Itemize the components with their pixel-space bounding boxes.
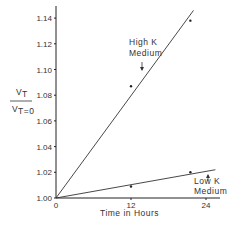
x-tick-label: 24 [202, 201, 211, 210]
series-line [56, 10, 194, 198]
y-tick-label: 1.04 [36, 143, 52, 152]
data-point [130, 185, 132, 187]
low-k-label-line2: Medium [194, 186, 227, 196]
x-axis-label: Time in Hours [100, 208, 159, 218]
y-tick-label: 1.06 [36, 117, 52, 126]
high-k-label-line2: Medium [129, 48, 162, 58]
ylabel-denominator-sub: T=0 [18, 106, 34, 116]
y-tick-label: 1.08 [36, 91, 52, 100]
y-tick-label: 1.00 [36, 194, 52, 203]
data-point [130, 85, 132, 87]
y-tick-label: 1.02 [36, 168, 52, 177]
y-tick-label: 1.14 [36, 14, 52, 23]
data-point [189, 171, 191, 173]
chart: 1.001.021.041.061.081.101.121.14 01224 V… [0, 0, 232, 227]
high-k-label-line1: High K [129, 37, 158, 47]
ylabel-numerator-sub: T [22, 89, 28, 99]
y-tick-label: 1.10 [36, 66, 52, 75]
x-tick-label: 0 [54, 201, 59, 210]
high-k-arrow-icon [140, 62, 144, 71]
y-ticks: 1.001.021.041.061.081.101.121.14 [36, 14, 56, 203]
y-tick-label: 1.12 [36, 40, 52, 49]
data-point [189, 19, 191, 21]
series-line [56, 170, 215, 198]
